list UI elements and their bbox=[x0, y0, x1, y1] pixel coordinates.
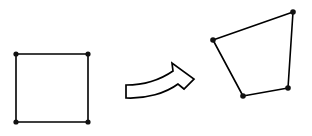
quad-vertex-left-dot bbox=[210, 37, 216, 43]
target-quadrilateral-group bbox=[210, 9, 296, 99]
square-vertex-top-right-dot bbox=[85, 51, 90, 56]
quad-vertex-bottom-left-dot bbox=[240, 93, 246, 99]
transformation-arrow-group bbox=[126, 63, 194, 98]
square-vertex-top-left-dot bbox=[13, 51, 18, 56]
source-square-group bbox=[13, 51, 90, 124]
quad-vertex-bottom-right-dot bbox=[285, 85, 291, 91]
diagram-canvas bbox=[0, 0, 312, 136]
transformation-diagram bbox=[0, 0, 312, 136]
square-vertex-bottom-right-dot bbox=[85, 119, 90, 124]
source-square-outline bbox=[16, 54, 88, 122]
quad-vertex-top-right-dot bbox=[290, 9, 296, 15]
curved-right-arrow-icon bbox=[126, 63, 194, 98]
target-quadrilateral-outline bbox=[213, 12, 293, 96]
square-vertex-bottom-left-dot bbox=[13, 119, 18, 124]
